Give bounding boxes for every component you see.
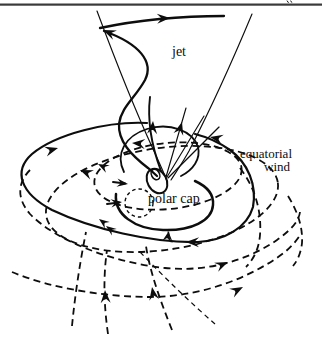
wind-jet-diagram: jet equatorial wind polar cap bbox=[0, 0, 322, 348]
page-top-rule bbox=[0, 1, 322, 6]
figure-labels: jet equatorial wind polar cap bbox=[148, 44, 292, 206]
wind-outer-bottom-arrow bbox=[229, 283, 245, 298]
wind-bottomright-arrow bbox=[214, 257, 230, 271]
jet-label: jet bbox=[171, 44, 186, 59]
jet-streamlines bbox=[100, 16, 224, 176]
equatorial-wind-label-line2: wind bbox=[264, 159, 291, 174]
polar-cap-label: polar cap bbox=[148, 191, 200, 206]
wind-left-arrow bbox=[78, 165, 94, 179]
cropped-text-fragment bbox=[287, 1, 292, 3]
wind-spiral-tails bbox=[72, 232, 215, 334]
header-rule-line bbox=[0, 4, 322, 6]
tail-up-arrow-left bbox=[100, 290, 111, 304]
figure-canvas: jet equatorial wind polar cap bbox=[0, 0, 322, 348]
